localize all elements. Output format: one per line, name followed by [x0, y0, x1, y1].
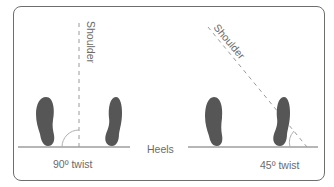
right-panel — [188, 27, 318, 147]
right-angle-arc-icon — [289, 131, 294, 147]
right-shoulder-line — [208, 27, 307, 147]
left-shoulder-label: Shoulder — [86, 21, 97, 63]
right-twist-label: 45º twist — [260, 160, 299, 171]
right-foot-1-icon — [205, 97, 222, 146]
heels-label: Heels — [147, 144, 174, 155]
left-foot-1-icon — [36, 97, 54, 146]
left-angle-arc-icon — [62, 130, 79, 147]
left-foot-2-icon — [105, 97, 122, 146]
right-foot-2-icon — [273, 97, 290, 146]
left-panel — [18, 23, 130, 147]
diagram-canvas: Shoulder Shoulder Heels 90º twist 45º tw… — [0, 0, 334, 187]
left-twist-label: 90º twist — [53, 159, 92, 170]
